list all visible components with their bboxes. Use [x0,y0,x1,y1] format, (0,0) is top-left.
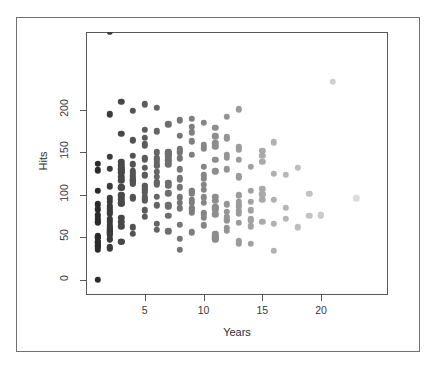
x-tick-label: 15 [247,304,277,316]
y-tick-label-wrap: 200 [52,102,76,118]
y-tick-label: 100 [58,181,70,205]
x-tick-mark [262,295,263,301]
y-tick-mark [80,237,86,238]
y-tick-label: 150 [58,138,70,162]
x-tick-label: 20 [306,304,336,316]
y-tick-label: 0 [58,266,70,290]
y-axis-title: Hits [37,146,49,176]
y-tick-label: 50 [58,223,70,247]
y-tick-label-wrap: 50 [52,229,76,245]
plot-axes-box [86,32,388,295]
plot-stage: 200150100500 5101520 Hits Years [0,0,437,374]
x-tick-mark [204,295,205,301]
x-tick-mark [145,295,146,301]
x-tick-label: 5 [130,304,160,316]
y-tick-mark [80,152,86,153]
y-tick-label-wrap: 100 [52,187,76,203]
x-tick-label: 10 [189,304,219,316]
x-axis-title: Years [86,326,388,338]
y-tick-label-wrap: 150 [52,144,76,160]
y-tick-mark [80,195,86,196]
y-tick-mark [80,110,86,111]
y-tick-mark [80,280,86,281]
y-tick-label-wrap: 0 [52,272,76,288]
x-tick-mark [321,295,322,301]
y-tick-label: 200 [58,96,70,120]
